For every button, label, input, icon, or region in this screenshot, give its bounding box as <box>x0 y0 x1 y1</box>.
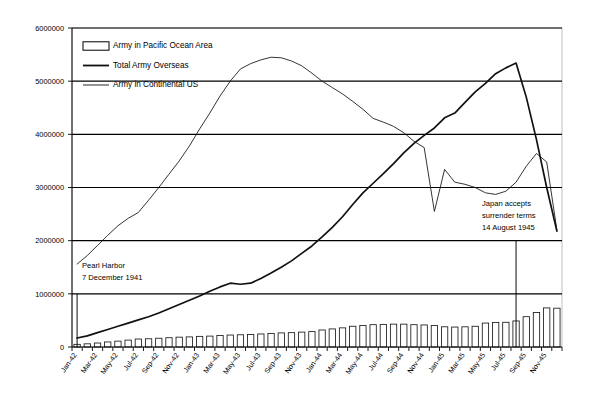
x-tick-label: May-42 <box>98 351 119 376</box>
bar-pacific-ocean-area <box>166 338 172 347</box>
bar-pacific-ocean-area <box>309 332 315 347</box>
x-tick-label: Sep-44 <box>385 351 406 375</box>
bar-pacific-ocean-area <box>421 325 427 347</box>
bar-pacific-ocean-area <box>544 308 550 347</box>
x-tick-label: Mar-45 <box>446 351 466 375</box>
x-tick-label: Jul-44 <box>366 351 385 372</box>
y-tick-label: 6000000 <box>35 24 64 33</box>
legend-label: Army in Continental US <box>113 80 199 89</box>
chart-legend: Army in Pacific Ocean AreaTotal Army Ove… <box>83 41 213 89</box>
bar-pacific-ocean-area <box>186 337 192 347</box>
x-tick-label: May-44 <box>343 351 364 376</box>
bar-pacific-ocean-area <box>339 328 345 347</box>
annotation-japan-surrender-line3: 14 August 1945 <box>482 223 535 232</box>
bar-pacific-ocean-area <box>390 324 396 347</box>
x-axis-tickmarks <box>72 347 562 351</box>
legend-swatch-bar <box>83 42 109 50</box>
bar-pacific-ocean-area <box>533 312 539 347</box>
annotation-pearl-harbor-line2: 7 December 1941 <box>82 273 142 282</box>
bar-pacific-ocean-area <box>135 339 141 347</box>
x-tick-label: Nov-43 <box>283 351 304 375</box>
y-tick-label: 5000000 <box>35 77 64 86</box>
bar-pacific-ocean-area <box>380 324 386 347</box>
bar-pacific-ocean-area <box>472 326 478 347</box>
y-tick-label: 2000000 <box>35 236 64 245</box>
bar-pacific-ocean-area <box>401 324 407 347</box>
bar-pacific-ocean-area <box>411 325 417 347</box>
chart-container: 0100000020000003000000400000050000006000… <box>0 0 593 404</box>
x-tick-label: Sep-42 <box>140 351 161 375</box>
bar-pacific-ocean-area <box>288 333 294 347</box>
bar-pacific-ocean-area <box>329 329 335 347</box>
bar-pacific-ocean-area <box>452 327 458 347</box>
bar-pacific-ocean-area <box>360 325 366 347</box>
x-tick-label: May-43 <box>221 351 242 376</box>
x-tick-label: Nov-44 <box>405 351 426 375</box>
x-axis-tick-labels: Jan-42Mar-42May-42Jul-42Sep-42Nov-42Jan-… <box>59 351 549 376</box>
x-tick-label: Mar-44 <box>324 351 344 375</box>
bar-pacific-ocean-area <box>554 308 560 347</box>
x-tick-label: Mar-42 <box>79 351 99 375</box>
bar-pacific-ocean-area <box>145 339 151 347</box>
bar-pacific-ocean-area <box>94 343 100 347</box>
bar-pacific-ocean-area <box>482 323 488 347</box>
y-tick-label: 3000000 <box>35 183 64 192</box>
bar-pacific-ocean-area <box>258 334 264 347</box>
bar-pacific-ocean-area <box>492 323 498 347</box>
x-tick-label: Sep-43 <box>262 351 283 375</box>
bar-pacific-ocean-area <box>278 333 284 347</box>
x-tick-label: Jan-43 <box>181 351 201 374</box>
x-tick-label: Jan-42 <box>59 351 79 374</box>
legend-label: Army in Pacific Ocean Area <box>113 41 213 50</box>
annotation-japan-surrender-line2: surrender terms <box>482 211 536 220</box>
x-tick-label: May-45 <box>466 351 487 376</box>
bar-pacific-ocean-area <box>196 336 202 347</box>
bar-pacific-ocean-area <box>105 342 111 347</box>
bar-pacific-ocean-area <box>431 325 437 347</box>
bar-pacific-ocean-area <box>319 330 325 347</box>
x-tick-label: Jul-42 <box>121 351 140 372</box>
x-tick-label: Nov-45 <box>528 351 549 375</box>
annotation-pearl-harbor-line1: Pearl Harbor <box>82 261 126 270</box>
y-tick-label: 1000000 <box>35 290 64 299</box>
y-axis-ticks: 0100000020000003000000400000050000006000… <box>35 24 72 352</box>
bar-pacific-ocean-area <box>350 326 356 347</box>
x-tick-label: Jan-44 <box>304 351 324 374</box>
y-tick-label: 0 <box>60 343 64 352</box>
bar-pacific-ocean-area <box>441 327 447 347</box>
bar-pacific-ocean-area <box>503 322 509 347</box>
legend-label: Total Army Overseas <box>113 61 189 70</box>
bar-pacific-ocean-area <box>115 341 121 347</box>
army-strength-line-chart: 0100000020000003000000400000050000006000… <box>0 0 593 404</box>
bar-pacific-ocean-area <box>370 325 376 347</box>
pacific-ocean-area-bars <box>74 308 560 347</box>
x-tick-label: Jan-45 <box>426 351 446 374</box>
bar-pacific-ocean-area <box>207 336 213 347</box>
bar-pacific-ocean-area <box>247 335 253 347</box>
bar-pacific-ocean-area <box>268 333 274 347</box>
bar-pacific-ocean-area <box>217 336 223 347</box>
x-tick-label: Sep-45 <box>507 351 528 375</box>
bar-pacific-ocean-area <box>156 338 162 347</box>
bar-pacific-ocean-area <box>176 337 182 347</box>
y-tick-label: 4000000 <box>35 130 64 139</box>
x-tick-label: Jul-45 <box>489 351 508 372</box>
bar-pacific-ocean-area <box>227 335 233 347</box>
bar-pacific-ocean-area <box>299 332 305 347</box>
bar-pacific-ocean-area <box>237 335 243 347</box>
x-tick-label: Nov-42 <box>160 351 181 375</box>
annotation-japan-surrender-line1: Japan accepts <box>482 199 531 208</box>
bar-pacific-ocean-area <box>523 317 529 347</box>
x-tick-label: Mar-43 <box>201 351 221 375</box>
x-tick-label: Jul-43 <box>244 351 263 372</box>
bar-pacific-ocean-area <box>125 340 131 347</box>
bar-pacific-ocean-area <box>462 327 468 347</box>
